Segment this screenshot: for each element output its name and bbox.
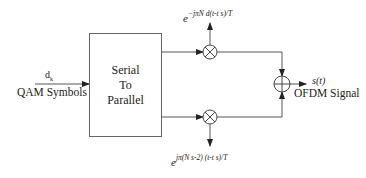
block-label: Serial To Parallel	[89, 33, 162, 137]
input-label: QAM Symbols	[17, 87, 87, 99]
block-line-1: Serial	[112, 63, 140, 78]
top-multiplier-icon	[203, 45, 217, 59]
summer-icon	[274, 76, 290, 92]
block-line-3: Parallel	[107, 93, 144, 108]
bottom-to-summer-line	[217, 92, 282, 117]
output-label: OFDM Signal	[294, 88, 360, 100]
bottom-carrier-exponent: jπ(N s-2) (t-t s)/T	[176, 153, 227, 162]
input-symbol-subscript: k	[50, 76, 53, 82]
input-symbol-label: dk	[45, 70, 53, 82]
output-signal-label: s(t)	[312, 76, 325, 86]
bottom-carrier-formula: ejπ(N s-2) (t-t s)/T	[171, 157, 227, 168]
top-carrier-exponent: −jπN d(t-t s)/T	[188, 9, 232, 18]
block-line-2: To	[119, 78, 132, 93]
top-carrier-formula: e−jπN d(t-t s)/T	[183, 13, 232, 24]
bottom-multiplier-icon	[203, 110, 217, 124]
top-to-summer-line	[217, 52, 282, 76]
